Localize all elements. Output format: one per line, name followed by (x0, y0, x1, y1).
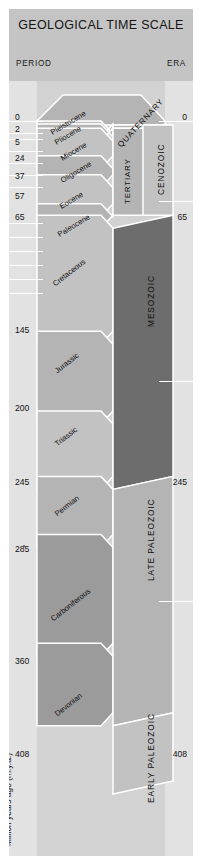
period-label-tertiary: TERTIARY (123, 158, 132, 204)
tick-rule-right (159, 121, 193, 122)
tick-label-right: 245 (173, 477, 187, 487)
tick-label-left: 5 (15, 137, 20, 147)
epoch-band-devonian (37, 643, 113, 726)
tick-label-left: 245 (15, 477, 29, 487)
tick-label-left: 0 (15, 112, 20, 122)
y-axis-caption: Million years ago (m.y.a.) (9, 753, 13, 846)
time-scale-geometry (9, 81, 193, 856)
tick-rule-right (159, 601, 193, 602)
tick-rule-left (9, 265, 43, 266)
era-box-mesozoic (113, 215, 173, 489)
column-header-era: ERA (167, 59, 186, 68)
tick-label-left: 360 (15, 656, 29, 666)
tick-label-left: 200 (15, 403, 29, 413)
tick-label-left: 145 (15, 325, 29, 335)
tick-rule-right (159, 201, 193, 202)
geological-time-scale-figure: GEOLOGICAL TIME SCALE PERIOD ERA 0 (0, 0, 202, 865)
epoch-band-cretaceous (37, 215, 113, 344)
tick-label-left: 24 (15, 153, 25, 163)
tick-label-left: 2 (15, 124, 20, 134)
tick-rule-right (159, 381, 193, 382)
tick-label-right: 65 (177, 212, 187, 222)
tick-rule-left (9, 237, 43, 238)
epoch-band-jurassic (37, 331, 113, 424)
era-box-early-paleozoic (113, 713, 173, 794)
time-scale-chart: 0 2 5 24 37 57 65 145 200 245 285 360 40… (9, 81, 193, 856)
era-label-cenozoic: CENOZOIC (156, 144, 166, 195)
tick-rule-left (9, 151, 43, 152)
tick-rule-left (9, 187, 43, 188)
era-label-mesozoic: MESOZOIC (146, 275, 156, 327)
tick-rule-left (9, 293, 43, 294)
column-header-period: PERIOD (16, 59, 52, 68)
tick-label-left: 57 (15, 191, 25, 201)
tick-label-right: 0 (182, 112, 187, 122)
tick-rule-left (9, 163, 43, 164)
tick-label-left: 65 (15, 212, 25, 222)
tick-rule-left (9, 279, 43, 280)
tick-rule-left (9, 251, 43, 252)
poster-frame: GEOLOGICAL TIME SCALE PERIOD ERA 0 (9, 9, 193, 856)
tick-label-left: 408 (15, 749, 29, 759)
scan-speck (23, 545, 25, 547)
tick-label-right: 408 (173, 749, 187, 759)
era-label-early-paleozoic: EARLY PALEOZOIC (146, 713, 156, 803)
page-title: GEOLOGICAL TIME SCALE (9, 18, 193, 33)
title-band: GEOLOGICAL TIME SCALE PERIOD ERA (9, 9, 193, 81)
tick-label-left: 37 (15, 171, 25, 181)
tick-rule-left (9, 223, 43, 224)
era-label-late-paleozoic: LATE PALEOZOIC (146, 498, 156, 581)
